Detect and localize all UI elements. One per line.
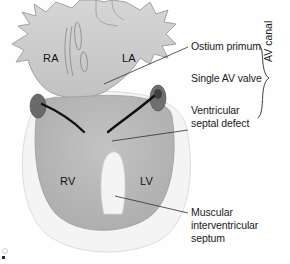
chamber-label-rv: RV <box>60 175 75 187</box>
atria-mass <box>12 0 176 98</box>
annotation-septum-line2: interventricular <box>191 219 258 232</box>
annotation-vsd-line1: Ventricular <box>191 104 240 117</box>
annotation-single-av-valve: Single AV valve <box>191 72 262 85</box>
ventricular-chambers <box>30 90 190 240</box>
chamber-label-la: LA <box>122 52 136 64</box>
brace-label-av-canal: AV canal <box>262 21 274 62</box>
annotation-septum-line3: septum <box>191 232 225 245</box>
annotation-ostium-primum: Ostium primum <box>191 40 261 53</box>
chamber-label-ra: RA <box>43 52 59 64</box>
annotation-septum-line1: Muscular <box>191 206 233 219</box>
corner-artifact-dot <box>2 256 5 259</box>
chamber-label-lv: LV <box>140 175 153 187</box>
figure-canvas: RA LA RV LV Ostium primum Single AV valv… <box>0 0 290 264</box>
annotation-vsd-line2: septal defect <box>191 117 249 130</box>
corner-artifact-circle <box>2 248 8 254</box>
